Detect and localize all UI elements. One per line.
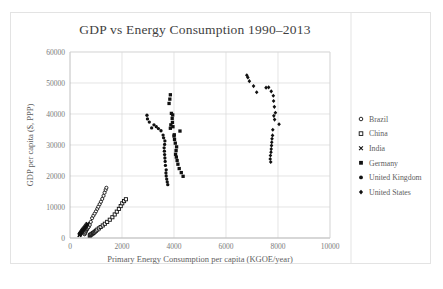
legend: BrazilChinaIndiaGermanyUnited KingdomUni…	[351, 13, 422, 263]
legend-marker	[359, 117, 363, 121]
data-point	[146, 117, 149, 120]
data-point	[178, 129, 181, 132]
y-tick-label: 60000	[46, 48, 65, 57]
data-point	[162, 146, 165, 149]
data-point	[152, 123, 155, 126]
data-point	[164, 160, 167, 163]
data-point	[170, 112, 173, 115]
data-point	[273, 118, 277, 122]
data-point	[159, 129, 162, 132]
legend-label: China	[369, 129, 388, 138]
data-point	[163, 143, 166, 146]
data-point	[255, 90, 259, 94]
data-point	[163, 156, 166, 159]
data-point	[178, 167, 181, 170]
y-tick-label: 10000	[46, 203, 65, 212]
data-point	[162, 136, 165, 139]
legend-item-germany[interactable]: Germany	[359, 159, 398, 168]
data-point	[165, 177, 168, 180]
legend-item-united-kingdom[interactable]: United Kingdom	[359, 173, 422, 182]
data-point	[272, 99, 276, 103]
data-point	[174, 153, 177, 156]
x-tick-label: 2000	[115, 242, 130, 251]
data-point	[169, 93, 172, 96]
data-point	[269, 89, 273, 93]
y-axis-tick-labels: 0100002000030000400005000060000	[46, 48, 65, 243]
x-tick-label: 8000	[271, 242, 286, 251]
data-point	[166, 183, 169, 186]
data-point	[269, 153, 273, 157]
series-united-kingdom	[145, 114, 169, 187]
y-tick-label: 40000	[46, 110, 65, 119]
data-point	[124, 198, 127, 201]
data-point	[268, 157, 272, 161]
data-point	[248, 79, 252, 83]
y-axis-title: GDP per capita ($, PPP)	[25, 104, 35, 187]
legend-marker	[359, 132, 363, 136]
data-point	[89, 220, 92, 223]
data-point	[171, 117, 174, 120]
data-point	[165, 168, 168, 171]
legend-marker	[359, 146, 363, 150]
x-axis-tick-labels: 0200040006000800010000	[68, 242, 340, 251]
legend-label: United Kingdom	[369, 173, 422, 182]
scatter-plot: 0100002000030000400005000060000 02000400…	[0, 0, 443, 289]
data-point	[264, 86, 268, 90]
x-tick-label: 6000	[219, 242, 234, 251]
data-point	[164, 171, 167, 174]
data-point	[163, 150, 166, 153]
data-point	[165, 174, 168, 177]
series-united-states	[245, 73, 281, 164]
series-germany	[167, 93, 184, 178]
data-point	[273, 105, 277, 109]
legend-marker	[359, 161, 363, 165]
data-point	[105, 186, 108, 189]
legend-label: United States	[369, 188, 411, 197]
data-point	[163, 139, 166, 142]
legend-item-united-states[interactable]: United States	[359, 188, 411, 197]
data-point	[169, 127, 172, 130]
data-point	[163, 153, 166, 156]
data-point	[270, 140, 274, 144]
y-tick-label: 50000	[46, 79, 65, 88]
data-point	[271, 133, 275, 137]
gridlines	[70, 52, 330, 238]
data-point	[175, 159, 178, 162]
data-point	[270, 137, 274, 141]
data-point	[148, 120, 151, 123]
data-point	[167, 102, 170, 105]
data-point	[174, 149, 177, 152]
y-tick-label: 30000	[46, 141, 65, 150]
x-tick-label: 4000	[167, 242, 182, 251]
data-point	[150, 126, 153, 129]
x-tick-label: 10000	[321, 242, 340, 251]
y-tick-label: 20000	[46, 172, 65, 181]
legend-marker	[359, 190, 363, 195]
data-point	[252, 84, 256, 88]
legend-label: India	[369, 144, 386, 153]
legend-item-brazil[interactable]: Brazil	[359, 115, 389, 124]
legend-label: Brazil	[369, 115, 389, 124]
data-points	[78, 73, 281, 237]
data-point	[269, 147, 273, 151]
data-point	[145, 114, 148, 117]
data-point	[272, 94, 276, 98]
legend-item-china[interactable]: China	[359, 129, 388, 138]
x-axis-title: Primary Energy Consumption per capita (K…	[107, 254, 293, 264]
data-point	[174, 141, 177, 144]
data-point	[173, 138, 176, 141]
data-point	[269, 160, 273, 164]
data-point	[169, 123, 172, 126]
data-point	[175, 145, 178, 148]
data-point	[271, 128, 275, 132]
legend-item-india[interactable]: India	[359, 144, 385, 153]
x-tick-label: 0	[68, 242, 72, 251]
chart-screenshot: GDP vs Energy Consumption 1990–2013 0100…	[0, 0, 443, 289]
data-point	[176, 163, 179, 166]
legend-label: Germany	[369, 159, 398, 168]
data-point	[166, 180, 169, 183]
data-point	[161, 133, 164, 136]
data-point	[173, 133, 176, 136]
data-point	[181, 175, 184, 178]
legend-marker	[359, 176, 363, 180]
